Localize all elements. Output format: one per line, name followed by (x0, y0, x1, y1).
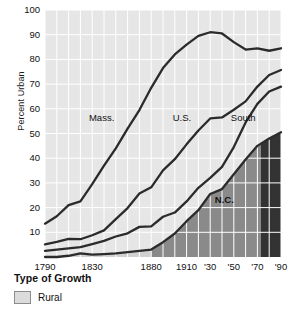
x-axis-tick-label: 1880 (131, 262, 171, 272)
line-chart-svg: Mass.U.S.SouthN.C. (0, 0, 295, 268)
legend-swatch-icon (14, 291, 31, 304)
x-axis-tick-label: '90 (261, 262, 295, 272)
x-axis-tick-label: 1790 (25, 262, 65, 272)
annotation-mass: Mass. (89, 112, 114, 123)
legend-title: Type of Growth (14, 272, 284, 284)
chart-plot-area: 100908070605040302010 Percent Urban Mass… (0, 0, 295, 268)
nc-area-dark (261, 132, 281, 257)
legend-item-label: Rural (38, 292, 62, 303)
legend: Type of Growth Rural (14, 272, 284, 308)
legend-item-list: Rural (14, 291, 284, 304)
annotation-nc: N.C. (215, 194, 234, 205)
urbanization-chart-figure: 100908070605040302010 Percent Urban Mass… (0, 0, 295, 310)
annotation-us: U.S. (173, 112, 191, 123)
gridlines (45, 10, 281, 257)
legend-item: Rural (14, 291, 284, 304)
annotation-south: South (231, 112, 256, 123)
x-axis-tick-label: 1830 (72, 262, 112, 272)
